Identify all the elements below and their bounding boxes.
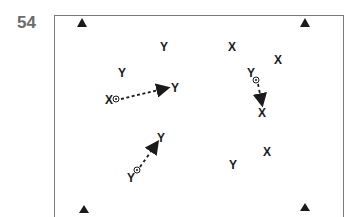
player-x: X <box>274 53 282 67</box>
cone-icon <box>300 18 310 27</box>
player-x: X <box>258 106 266 120</box>
pass-arrow <box>121 88 167 99</box>
player-x: Y <box>171 81 179 95</box>
ball-icon <box>113 96 119 102</box>
cone-icon <box>300 203 310 211</box>
player-y: Y <box>160 40 168 54</box>
player-x: X <box>228 40 236 54</box>
player-y: Y <box>127 171 135 185</box>
player-y: Y <box>118 66 126 80</box>
player-x: X <box>105 93 113 107</box>
player-y: Y <box>229 158 237 172</box>
pass-arrow <box>258 84 262 104</box>
cone-icon <box>77 18 87 27</box>
player-y: Y <box>247 66 255 80</box>
cone-icon <box>79 205 89 213</box>
pass-arrow <box>140 143 157 167</box>
drill-diagram: Y X Y X Y X Y X Y X Y Y <box>0 0 359 217</box>
player-y: Y <box>157 131 165 145</box>
player-x: X <box>263 145 271 159</box>
